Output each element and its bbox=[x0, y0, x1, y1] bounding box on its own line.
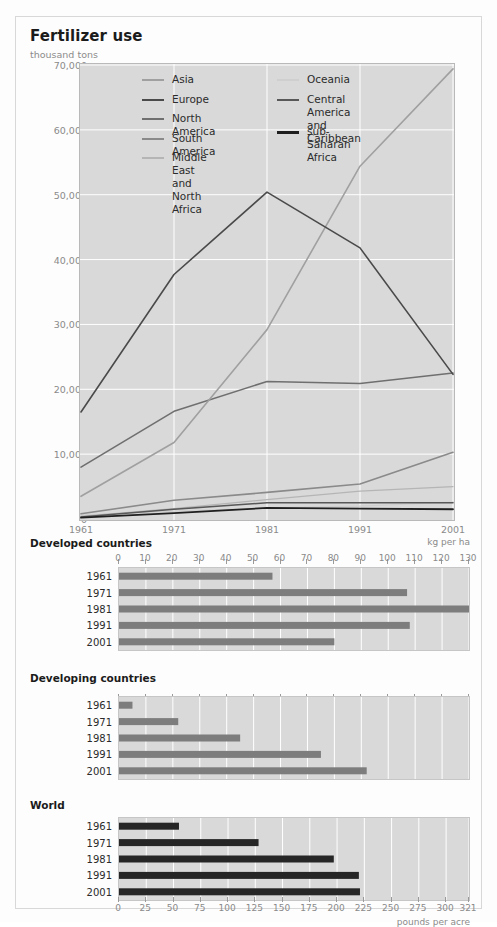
legend-label: Asia bbox=[172, 73, 194, 86]
panel-unit-world: pounds per acre bbox=[397, 917, 470, 927]
bar-category-label: 1981 bbox=[60, 733, 112, 744]
axis-tick-label: 100 bbox=[218, 903, 235, 913]
axis-tick-label: 60 bbox=[274, 553, 285, 563]
line-x-tick: 1971 bbox=[162, 524, 186, 535]
panel-title-developed: Developed countries bbox=[30, 537, 152, 549]
axis-tick-mark bbox=[418, 897, 419, 902]
bar-category-label: 1991 bbox=[60, 620, 112, 631]
bar-category-label: 1981 bbox=[60, 854, 112, 865]
bar-category-label: 1961 bbox=[60, 571, 112, 582]
axis-tick-label: 120 bbox=[432, 553, 449, 563]
legend-swatch-icon bbox=[142, 99, 164, 101]
axis-tick-label: 225 bbox=[355, 903, 372, 913]
axis-tick-label: 175 bbox=[300, 903, 317, 913]
bar-category-label: 1991 bbox=[60, 870, 112, 881]
axis-tick-label: 321 bbox=[459, 903, 476, 913]
axis-tick-label: 125 bbox=[246, 903, 263, 913]
axis-tick-label: 0 bbox=[115, 903, 121, 913]
bar-category-label: 1971 bbox=[60, 716, 112, 727]
bar-field-developed bbox=[118, 567, 470, 651]
axis-tick-label: 50 bbox=[247, 553, 258, 563]
panel-world: World 19611971198119912001 0255075100125… bbox=[30, 799, 470, 909]
axis-tick-label: 30 bbox=[193, 553, 204, 563]
bar-category-label: 1961 bbox=[60, 700, 112, 711]
panel-title-developing: Developing countries bbox=[30, 672, 156, 684]
axis-ticks-world: 0255075100125150175200225250275300321 bbox=[30, 903, 470, 915]
panel-developed-countries: Developed countries kg per ha 0102030405… bbox=[30, 537, 470, 659]
axis-tick-label: 0 bbox=[115, 553, 121, 563]
axis-ticks-developed: 0102030405060708090100110120130 bbox=[30, 553, 470, 565]
axis-tick-mark bbox=[336, 897, 337, 902]
line-x-tick: 1981 bbox=[255, 524, 279, 535]
legend-swatch-icon bbox=[142, 118, 164, 120]
axis-tick-label: 70 bbox=[301, 553, 312, 563]
bar-category-label: 2001 bbox=[60, 765, 112, 776]
axis-tick-label: 75 bbox=[194, 903, 205, 913]
panel-title-world: World bbox=[30, 799, 65, 811]
axis-tick-label: 20 bbox=[166, 553, 177, 563]
legend-swatch-icon bbox=[142, 138, 164, 140]
axis-tick-mark bbox=[173, 897, 174, 902]
axis-tick-label: 150 bbox=[273, 903, 290, 913]
axis-tick-label: 90 bbox=[355, 553, 366, 563]
bar-category-label: 1991 bbox=[60, 749, 112, 760]
axis-tick-label: 25 bbox=[140, 903, 151, 913]
page-title: Fertilizer use bbox=[30, 27, 143, 45]
bar-category-label: 1981 bbox=[60, 604, 112, 615]
axis-tick-label: 80 bbox=[328, 553, 339, 563]
axis-tick-label: 40 bbox=[220, 553, 231, 563]
panel-unit-developed: kg per ha bbox=[427, 537, 470, 547]
line-chart: 010,00020,00030,00040,00050,00060,00070,… bbox=[30, 61, 470, 531]
bar-category-label: 1971 bbox=[60, 837, 112, 848]
bar-category-label: 2001 bbox=[60, 886, 112, 897]
bar-field-world bbox=[118, 817, 470, 901]
panel-developing-countries: Developing countries 1961197119811991200… bbox=[30, 672, 470, 794]
legend-label: sub-Saharan Africa bbox=[307, 125, 351, 164]
axis-tick-mark bbox=[282, 897, 283, 902]
axis-tick-mark bbox=[445, 897, 446, 902]
line-x-tick: 1961 bbox=[69, 524, 93, 535]
line-chart-plot-area: AsiaEuropeNorth AmericaSouth AmericaMidd… bbox=[79, 63, 455, 521]
legend-swatch-icon bbox=[277, 131, 299, 134]
axis-tick-mark bbox=[118, 897, 119, 902]
legend-label: Europe bbox=[172, 93, 209, 106]
axis-tick-mark bbox=[391, 897, 392, 902]
legend-label: Oceania bbox=[307, 73, 350, 86]
axis-tick-label: 10 bbox=[139, 553, 150, 563]
bar-category-label: 2001 bbox=[60, 636, 112, 647]
axis-tick-mark bbox=[200, 897, 201, 902]
axis-tick-mark bbox=[468, 897, 469, 902]
axis-tick-mark bbox=[363, 897, 364, 902]
axis-tick-label: 200 bbox=[327, 903, 344, 913]
legend-swatch-icon bbox=[142, 157, 164, 159]
line-chart-unit-label: thousand tons bbox=[30, 49, 98, 60]
axis-tick-label: 275 bbox=[409, 903, 426, 913]
axis-tick-label: 50 bbox=[167, 903, 178, 913]
legend-label: Middle East and North Africa bbox=[172, 151, 207, 216]
legend-swatch-icon bbox=[277, 99, 299, 101]
legend-swatch-icon bbox=[277, 79, 299, 81]
axis-tick-mark bbox=[254, 897, 255, 902]
axis-tick-label: 300 bbox=[437, 903, 454, 913]
figure-frame: Fertilizer use thousand tons 010,00020,0… bbox=[15, 16, 482, 909]
axis-tick-mark bbox=[309, 897, 310, 902]
axis-tick-label: 110 bbox=[406, 553, 423, 563]
line-x-tick: 1991 bbox=[348, 524, 372, 535]
bar-field-developing bbox=[118, 696, 470, 780]
line-x-tick: 2001 bbox=[441, 524, 465, 535]
axis-tick-label: 130 bbox=[459, 553, 476, 563]
bar-category-label: 1971 bbox=[60, 587, 112, 598]
legend-swatch-icon bbox=[142, 79, 164, 81]
bar-category-label: 1961 bbox=[60, 821, 112, 832]
axis-tick-mark bbox=[227, 897, 228, 902]
axis-tick-mark bbox=[145, 897, 146, 902]
axis-tick-label: 250 bbox=[382, 903, 399, 913]
axis-tick-label: 100 bbox=[379, 553, 396, 563]
